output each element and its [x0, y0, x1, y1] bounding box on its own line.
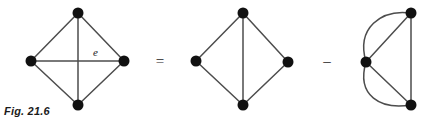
graph-figure: e = –: [0, 0, 427, 127]
vertex-top: [238, 8, 249, 19]
edge-left-bottom: [31, 61, 78, 105]
vertex-right: [119, 56, 130, 67]
vertex-topright: [406, 8, 417, 19]
vertex-left: [191, 56, 202, 67]
vertex-top: [73, 8, 84, 19]
operator-equals: =: [156, 53, 164, 69]
edge-top-right: [78, 13, 124, 61]
operator-minus: –: [322, 53, 331, 69]
vertex-right: [283, 57, 294, 68]
edge-right-bottom: [243, 62, 288, 105]
edge-top-left: [196, 13, 243, 61]
graph-middle: [191, 8, 294, 111]
edge-left-bottomright-straight: [366, 62, 411, 105]
vertex-bottomright: [406, 100, 417, 111]
edge-top-right: [243, 13, 288, 62]
edge-top-left: [31, 13, 78, 61]
edge-left-topright-straight: [366, 13, 411, 62]
graph-right: [361, 8, 417, 111]
vertex-bottom: [73, 100, 84, 111]
vertex-left: [26, 56, 37, 67]
figure-page: e = – Fig. 21.6: [0, 0, 427, 127]
edge-label-e: e: [93, 46, 98, 58]
edge-right-bottom: [78, 61, 124, 105]
vertex-bottom: [238, 100, 249, 111]
edge-left-bottomright-curved: [364, 62, 411, 106]
figure-caption: Fig. 21.6: [4, 105, 50, 117]
vertex-left: [361, 57, 372, 68]
graph-left: e: [26, 8, 130, 111]
edge-left-bottom: [196, 61, 243, 105]
